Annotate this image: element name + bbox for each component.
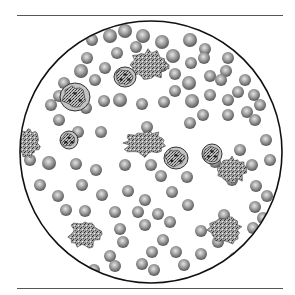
red-blood-cell [158, 96, 170, 108]
red-blood-cell [119, 159, 131, 171]
red-blood-cell [169, 68, 181, 80]
red-blood-cell [170, 246, 182, 258]
red-blood-cell [250, 180, 262, 192]
white-blood-cell [202, 144, 222, 164]
red-blood-cell [232, 86, 244, 98]
red-blood-cell [70, 158, 82, 170]
red-blood-cell [254, 99, 266, 111]
red-blood-cell [195, 225, 207, 237]
red-blood-cell [148, 264, 160, 276]
red-blood-cell [204, 70, 216, 82]
red-blood-cell [155, 170, 167, 182]
red-blood-cell [246, 159, 258, 171]
red-blood-cell [261, 190, 273, 202]
red-blood-cell [183, 33, 197, 47]
red-blood-cell [96, 189, 108, 201]
red-blood-cell [249, 114, 261, 126]
red-blood-cell [139, 219, 151, 231]
red-blood-cell [146, 246, 158, 258]
red-blood-cell [95, 126, 107, 138]
red-blood-cell [136, 258, 148, 270]
red-blood-cell [45, 99, 57, 111]
red-blood-cell [222, 109, 234, 121]
red-blood-cell [184, 117, 196, 129]
red-blood-cell [222, 52, 234, 64]
platelet-clump [207, 217, 242, 244]
red-blood-cell [81, 52, 93, 64]
red-blood-cell [239, 74, 251, 86]
red-blood-cell [169, 85, 181, 97]
white-blood-cell [60, 131, 78, 149]
red-blood-cell [122, 185, 134, 197]
red-blood-cell [195, 248, 207, 260]
white-blood-cell [114, 67, 136, 87]
red-blood-cell [248, 89, 260, 101]
red-blood-cell [185, 94, 199, 108]
red-blood-cell [52, 190, 64, 202]
red-blood-cell [260, 134, 272, 146]
red-blood-cell [155, 35, 169, 49]
red-blood-cell [264, 154, 276, 166]
red-blood-cell [181, 171, 193, 183]
red-blood-cell [198, 52, 210, 64]
red-blood-cell [139, 194, 151, 206]
white-blood-cell [60, 83, 90, 111]
red-blood-cell [90, 164, 102, 176]
platelet-clump [218, 156, 247, 183]
red-blood-cell [117, 236, 129, 248]
red-blood-cell [113, 93, 127, 107]
red-blood-cell [197, 109, 209, 121]
red-blood-cell [118, 24, 132, 38]
red-blood-cell [136, 29, 150, 43]
red-blood-cell [111, 47, 123, 59]
red-blood-cell [79, 205, 91, 217]
red-blood-cell [103, 29, 117, 43]
red-blood-cell [99, 62, 111, 74]
red-blood-cell [157, 234, 169, 246]
platelet-clump [68, 222, 102, 248]
red-blood-cell [249, 201, 261, 213]
red-blood-cell [53, 114, 65, 126]
red-blood-cell [215, 74, 227, 86]
red-blood-cell [98, 95, 110, 107]
red-blood-cell [182, 199, 194, 211]
red-blood-cell [222, 94, 234, 106]
red-blood-cell [178, 259, 190, 271]
red-blood-cell [34, 179, 46, 191]
red-blood-cell [130, 41, 142, 53]
red-blood-cell [114, 223, 126, 235]
red-blood-cell [136, 98, 148, 110]
red-blood-cell [74, 64, 88, 78]
red-blood-cell [89, 74, 101, 86]
red-blood-cell [109, 260, 121, 272]
red-blood-cell [166, 186, 178, 198]
red-blood-cell [229, 252, 241, 264]
red-blood-cell [164, 216, 176, 228]
red-blood-cell [76, 179, 88, 191]
red-blood-cell [109, 206, 121, 218]
red-blood-cell [185, 57, 197, 69]
red-blood-cell [145, 159, 157, 171]
red-blood-cell [152, 208, 164, 220]
red-blood-cell [42, 156, 56, 170]
red-blood-cell [132, 206, 144, 218]
red-blood-cell [204, 89, 216, 101]
blood-smear-illustration [0, 0, 295, 295]
white-blood-cell [164, 147, 188, 169]
microscope-field [0, 0, 295, 295]
red-blood-cell [182, 76, 196, 90]
red-blood-cell [234, 144, 246, 156]
red-blood-cell [166, 49, 180, 63]
red-blood-cell [60, 204, 72, 216]
platelet-clump [123, 130, 166, 157]
